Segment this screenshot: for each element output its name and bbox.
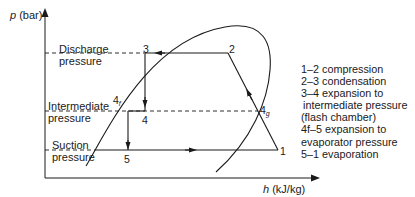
x-axis-arrow-icon [311,175,320,182]
legend-item: 2–3 condensation [301,75,407,87]
legend-item: 3–4 expansion to [301,87,407,99]
y-axis-label: p (bar) [10,9,42,21]
point-3-label: 3 [143,44,149,55]
x-axis-label: h (kJ/kg) [263,183,305,195]
legend-item: 5–1 evaporation [301,148,407,160]
x-axis-unit: (kJ/kg) [269,183,305,195]
legend-item: (flash chamber) [301,111,407,123]
legend-item: evaporator pressure [301,136,407,148]
point-1-label: 1 [280,146,286,157]
legend-item: 1–2 compression [301,63,407,75]
y-axis-arrow-icon [42,8,49,17]
legend-item: intermediate pressure [301,99,407,111]
point-5-label: 5 [124,154,130,165]
intermediate-pressure-label: Intermediate pressure [48,100,109,124]
y-axis-unit: (bar) [16,9,42,21]
process-legend: 1–2 compression 2–3 condensation 3–4 exp… [301,63,407,160]
point-2-label: 2 [229,44,235,55]
suction-pressure-label: Suction pressure [52,139,95,163]
point-4f-label: 4f [113,95,121,109]
legend-item: 4f–5 expansion to [301,123,407,135]
point-4g-label: 4g [260,105,270,119]
cycle [96,53,278,150]
point-4-label: 4 [142,115,148,126]
discharge-pressure-label: Discharge pressure [59,43,109,67]
